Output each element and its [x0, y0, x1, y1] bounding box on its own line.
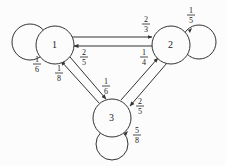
- edge-1-to-2-probability: 2 3: [142, 15, 150, 34]
- edge-3-to-1: [61, 61, 99, 103]
- edge-3-to-2-probability: 1 4: [140, 48, 148, 67]
- edge-3-to-1-probability: 1 8: [55, 64, 63, 83]
- self-loop-3-probability: 5 8: [133, 126, 141, 145]
- svg-text:5: 5: [82, 58, 86, 67]
- edge-2-to-1-probability: 2 5: [80, 48, 88, 67]
- svg-text:8: 8: [135, 136, 139, 145]
- svg-text:1: 1: [104, 77, 108, 86]
- node-2-label: 2: [168, 39, 173, 50]
- svg-text:1: 1: [35, 55, 39, 64]
- edge-2-to-3-probability: 2 5: [136, 97, 144, 116]
- svg-text:5: 5: [189, 16, 193, 25]
- svg-text:2: 2: [138, 97, 142, 106]
- node-3-label: 3: [109, 112, 114, 123]
- self-loop-2-probability: 1 5: [187, 6, 195, 25]
- svg-text:1: 1: [57, 64, 61, 73]
- svg-text:4: 4: [142, 58, 146, 67]
- edge-3-to-2: [121, 58, 158, 100]
- markov-chain-diagram: 1 2 3 1 6 1 5 5 8 2 3 2 5 1 6 1 8: [0, 0, 226, 166]
- svg-text:1: 1: [142, 48, 146, 57]
- self-loop-1-probability: 1 6: [33, 55, 41, 74]
- edge-1-to-3-probability: 1 6: [102, 77, 110, 96]
- svg-text:2: 2: [82, 48, 86, 57]
- svg-text:2: 2: [144, 15, 148, 24]
- svg-text:5: 5: [135, 126, 139, 135]
- svg-text:6: 6: [35, 65, 39, 74]
- svg-text:8: 8: [57, 74, 61, 83]
- svg-text:5: 5: [138, 107, 142, 116]
- node-1-label: 1: [52, 39, 57, 50]
- svg-text:3: 3: [144, 25, 148, 34]
- svg-text:1: 1: [189, 6, 193, 15]
- edge-1-to-3: [70, 57, 106, 99]
- svg-text:6: 6: [104, 87, 108, 96]
